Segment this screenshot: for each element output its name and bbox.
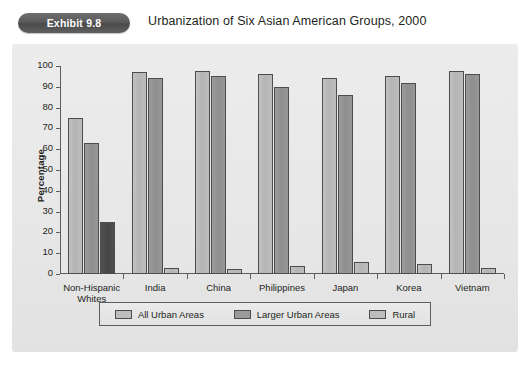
y-tick-label: 60: [42, 142, 53, 153]
bar: [290, 266, 305, 274]
legend-swatch: [234, 310, 251, 319]
bar-group: [250, 66, 313, 274]
bar: [132, 72, 147, 274]
chart-panel: Percentage 1009080706050403020100 Non-Hi…: [12, 44, 518, 352]
x-axis-label: Japan: [314, 282, 377, 293]
legend-swatch: [115, 310, 132, 319]
bar: [322, 78, 337, 274]
x-tick-mark: [314, 274, 315, 279]
legend-label: Rural: [392, 309, 415, 320]
y-tick-label: 70: [42, 121, 53, 132]
x-axis-label-line: Japan: [314, 282, 377, 293]
x-tick-mark: [377, 274, 378, 279]
bar: [148, 78, 163, 274]
x-axis-label-line: Non-Hispanic: [60, 282, 123, 293]
bar-group: [187, 66, 250, 274]
bar: [465, 74, 480, 274]
bar-group: [60, 66, 123, 274]
y-tick-label: 10: [42, 246, 53, 257]
legend-label: All Urban Areas: [138, 309, 204, 320]
x-axis-label: Philippines: [250, 282, 313, 293]
x-axis-label-line: India: [123, 282, 186, 293]
y-tick-label: 90: [42, 80, 53, 91]
legend-item: Larger Urban Areas: [234, 309, 340, 320]
bar-group: [314, 66, 377, 274]
bar: [385, 76, 400, 274]
bar: [401, 83, 416, 274]
x-tick-mark: [187, 274, 188, 279]
bar: [227, 269, 242, 274]
x-axis-label-line: Korea: [377, 282, 440, 293]
bar: [274, 87, 289, 274]
x-axis-label: China: [187, 282, 250, 293]
legend-swatch: [369, 310, 386, 319]
bar: [84, 143, 99, 274]
y-tick-label: 40: [42, 184, 53, 195]
exhibit-badge: Exhibit 9.8: [18, 13, 130, 33]
bar: [195, 71, 210, 274]
bar: [100, 222, 115, 274]
y-tick-label: 50: [42, 163, 53, 174]
y-tick-label: 100: [37, 59, 53, 70]
bar: [481, 268, 496, 274]
legend-item: Rural: [369, 309, 415, 320]
page-title: Urbanization of Six Asian American Group…: [148, 14, 426, 28]
chart-legend: All Urban AreasLarger Urban AreasRural: [99, 302, 431, 326]
x-axis-label-line: Philippines: [250, 282, 313, 293]
y-tick-label: 80: [42, 101, 53, 112]
x-axis-label: India: [123, 282, 186, 293]
bar: [164, 268, 179, 274]
y-tick-mark: [56, 274, 60, 275]
legend-label: Larger Urban Areas: [257, 309, 340, 320]
x-axis-label-line: China: [187, 282, 250, 293]
bar: [354, 262, 369, 274]
legend-item: All Urban Areas: [115, 309, 204, 320]
bar: [449, 71, 464, 274]
bar: [338, 95, 353, 274]
plot-wrapper: 1009080706050403020100 Non-HispanicWhite…: [60, 66, 504, 274]
x-axis-label-line: Vietnam: [441, 282, 504, 293]
x-axis-label: Korea: [377, 282, 440, 293]
x-axis-label: Non-HispanicWhites: [60, 282, 123, 304]
x-tick-mark: [504, 274, 505, 279]
x-tick-mark: [441, 274, 442, 279]
bar-group: [123, 66, 186, 274]
y-tick-label: 0: [48, 267, 53, 278]
bar: [68, 118, 83, 274]
bar-group: [441, 66, 504, 274]
bar: [258, 74, 273, 274]
exhibit-header: Exhibit 9.8 Urbanization of Six Asian Am…: [0, 0, 530, 44]
bar-group: [377, 66, 440, 274]
x-axis-label: Vietnam: [441, 282, 504, 293]
y-tick-label: 20: [42, 225, 53, 236]
bar: [417, 264, 432, 274]
x-tick-mark: [123, 274, 124, 279]
y-tick-label: 30: [42, 205, 53, 216]
bar: [211, 76, 226, 274]
x-tick-mark: [250, 274, 251, 279]
